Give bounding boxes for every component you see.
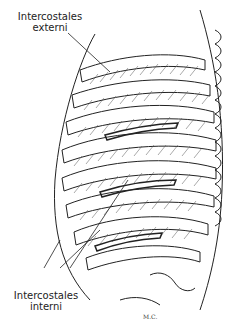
label-top-line2: externi bbox=[10, 22, 90, 33]
label-bottom-line2: interni bbox=[6, 301, 86, 312]
rib-cage-drawing bbox=[0, 0, 246, 329]
rib-cage-illustration bbox=[0, 0, 246, 329]
label-bottom-line1: Intercostales bbox=[6, 290, 86, 301]
label-top-line1: Intercostales bbox=[10, 11, 90, 22]
artist-signature: M.C. bbox=[143, 313, 157, 320]
label-intercostales-interni: Intercostales interni bbox=[6, 290, 86, 312]
label-intercostales-externi: Intercostales externi bbox=[10, 11, 90, 33]
